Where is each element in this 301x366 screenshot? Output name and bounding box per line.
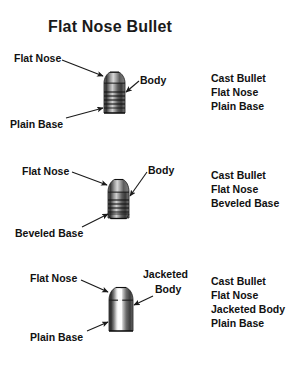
section-3-callout-body-line-1: Jacketed — [143, 268, 188, 280]
section-2-leader-body — [130, 172, 147, 196]
section-2-leader-nose — [72, 172, 107, 185]
section-2-callout-base: Beveled Base — [15, 227, 83, 239]
section-2-legend-line-3: Beveled Base — [211, 196, 279, 210]
section-2-callout-body: Body — [148, 164, 174, 176]
section-1-leader-nose — [62, 60, 103, 76]
bullet-cast-beveled-base — [108, 180, 129, 219]
section-1-legend-line-3: Plain Base — [211, 99, 266, 113]
section-2-legend-line-2: Flat Nose — [211, 182, 279, 196]
section-3-legend-line-3: Jacketed Body — [211, 302, 285, 316]
section-1-legend-line-2: Flat Nose — [211, 85, 266, 99]
section-2-legend-line-1: Cast Bullet — [211, 168, 279, 182]
section-1-leader-base — [66, 108, 103, 118]
section-3-legend-line-2: Flat Nose — [211, 288, 285, 302]
bullet-diagram-page: Flat Nose Bullet Flat Nose Body Plain Ba… — [0, 0, 301, 366]
section-3-legend: Cast Bullet Flat Nose Jacketed Body Plai… — [211, 274, 285, 330]
section-3-leader-base — [87, 322, 108, 331]
section-3-legend-line-1: Cast Bullet — [211, 274, 285, 288]
bullet-cast-plain-base — [104, 72, 125, 113]
section-2-leader-base — [82, 214, 108, 227]
section-3-legend-line-4: Plain Base — [211, 316, 285, 330]
section-3-leader-nose — [81, 280, 108, 292]
section-3-callout-base: Plain Base — [30, 331, 83, 343]
section-1-callout-nose: Flat Nose — [14, 52, 61, 64]
page-title: Flat Nose Bullet — [0, 18, 220, 36]
bullet-jacketed-plain-base — [109, 288, 133, 332]
section-1-legend-line-1: Cast Bullet — [211, 71, 266, 85]
section-3-callout-body-line-2: Body — [155, 283, 181, 295]
section-1-legend: Cast Bullet Flat Nose Plain Base — [211, 71, 266, 113]
section-1-callout-body: Body — [140, 74, 166, 86]
section-3-leader-body — [134, 296, 153, 305]
section-2-callout-nose: Flat Nose — [22, 165, 69, 177]
section-3-callout-nose: Flat Nose — [30, 272, 77, 284]
section-2-legend: Cast Bullet Flat Nose Beveled Base — [211, 168, 279, 210]
section-1-callout-base: Plain Base — [10, 118, 63, 130]
section-1-leader-body — [126, 81, 139, 92]
